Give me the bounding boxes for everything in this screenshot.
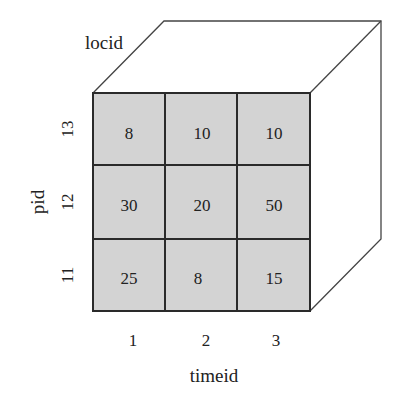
cell-value: 20 bbox=[194, 196, 211, 215]
cell-value: 8 bbox=[125, 124, 134, 143]
y-tick-label: 11 bbox=[58, 267, 77, 283]
cell-value: 10 bbox=[266, 124, 283, 143]
cell-value: 25 bbox=[121, 269, 138, 288]
cell-value: 10 bbox=[194, 124, 211, 143]
y-tick-label: 13 bbox=[58, 121, 77, 138]
x-tick-label: 2 bbox=[202, 331, 211, 350]
cube-top-right-edge bbox=[310, 21, 381, 93]
x-axis-label: timeid bbox=[190, 365, 239, 386]
z-axis-label: locid bbox=[85, 32, 123, 53]
cell-value: 8 bbox=[194, 269, 203, 288]
front-face: 8 10 10 30 20 50 25 8 15 bbox=[93, 93, 310, 311]
cell-value: 15 bbox=[266, 269, 283, 288]
x-tick-label: 3 bbox=[272, 331, 281, 350]
data-cube-diagram: 8 10 10 30 20 50 25 8 15 locid 1 2 3 tim… bbox=[0, 0, 404, 405]
x-tick-label: 1 bbox=[129, 331, 138, 350]
y-tick-label: 12 bbox=[58, 194, 77, 211]
cell-value: 30 bbox=[121, 196, 138, 215]
cell-value: 50 bbox=[266, 196, 283, 215]
y-axis-label: pid bbox=[27, 189, 48, 214]
